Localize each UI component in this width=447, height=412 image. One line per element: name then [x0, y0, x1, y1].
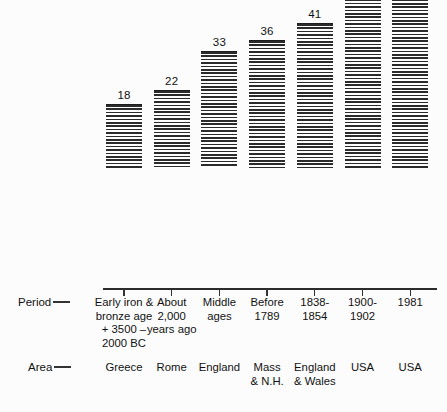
area-row-label: Area [28, 361, 71, 374]
bar-3: 33 [201, 52, 237, 168]
bar-value-label: 36 [249, 25, 285, 37]
area-row-dash [54, 366, 71, 367]
x-axis-tick [123, 289, 124, 296]
period-cell-line: years ago [140, 323, 204, 337]
bar-body [106, 104, 142, 168]
x-axis-tick [314, 289, 315, 296]
bar-chart: 18223336414971 Period Area Early iron &b… [0, 0, 447, 412]
period-row-dash [53, 301, 70, 302]
period-cell-line: 1981 [378, 296, 442, 310]
area-cell-line: & Wales [283, 375, 347, 389]
area-cell-7: USA [378, 361, 442, 375]
x-axis-tick [410, 289, 411, 296]
bar-body [249, 40, 285, 168]
bar-body [392, 0, 428, 168]
bar-6: 49 [345, 0, 381, 168]
period-cell-line: 1902 [331, 310, 395, 324]
bar-body [345, 0, 381, 168]
period-cell-7: 1981 [378, 296, 442, 310]
bar-2: 22 [154, 91, 190, 168]
area-row-label-text: Area [28, 361, 52, 373]
bar-value-label: 41 [297, 8, 333, 20]
bar-5: 41 [297, 24, 333, 168]
bar-4: 36 [249, 41, 285, 168]
bar-body [154, 90, 190, 168]
x-axis-tick [362, 289, 363, 296]
bar-1: 18 [106, 105, 142, 168]
bar-body [297, 23, 333, 168]
period-cell-line: 2000 BC [92, 337, 156, 351]
area-cell-line: USA [378, 361, 442, 375]
bar-body [201, 51, 237, 168]
x-axis-line [103, 288, 437, 290]
plot-area: 18223336414971 [0, 0, 447, 292]
x-axis-tick [171, 289, 172, 296]
bar-value-label: 22 [154, 75, 190, 87]
bar-7: 71 [392, 0, 428, 168]
period-row-label-text: Period [18, 296, 51, 308]
period-row-label: Period [18, 296, 70, 309]
bar-value-label: 33 [201, 36, 237, 48]
bar-value-label: 18 [106, 89, 142, 101]
x-axis-tick [266, 289, 267, 296]
x-axis-tick [219, 289, 220, 296]
